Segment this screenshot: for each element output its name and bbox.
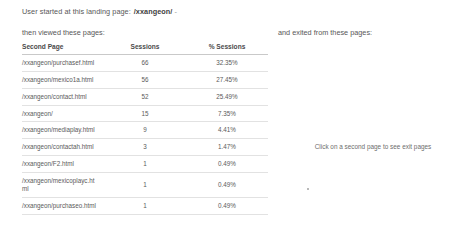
landing-page-path: /xxangeon/ bbox=[134, 7, 173, 16]
landing-page-label: User started at this landing page: bbox=[22, 7, 131, 16]
table-row[interactable]: /xxangeon/contact.html5225.49% bbox=[22, 88, 268, 105]
cell-sessions: 1 bbox=[104, 197, 186, 214]
column-header-sessions[interactable]: Sessions bbox=[104, 43, 186, 55]
landing-page-statement: User started at this landing page:/xxang… bbox=[22, 7, 177, 16]
cell-percent-sessions: 25.49% bbox=[186, 88, 268, 105]
cell-second-page[interactable]: /xxangeon/contact.html bbox=[22, 88, 104, 105]
column-header-percent-sessions[interactable]: % Sessions bbox=[186, 43, 268, 55]
landing-page-trailing-mark: - bbox=[174, 7, 176, 16]
table-header: Second Page Sessions % Sessions bbox=[22, 43, 268, 55]
cell-second-page[interactable]: /xxangeon/mexicoplayc.html bbox=[22, 173, 104, 198]
cell-second-page[interactable]: /xxangeon/contactah.html bbox=[22, 139, 104, 156]
cell-percent-sessions: 27.45% bbox=[186, 71, 268, 88]
cell-second-page[interactable]: /xxangeon/purchaseo.html bbox=[22, 197, 104, 214]
table-row[interactable]: /xxangeon/F2.html10.49% bbox=[22, 156, 268, 173]
cell-sessions: 52 bbox=[104, 88, 186, 105]
cell-percent-sessions: 7.35% bbox=[186, 105, 268, 122]
table-body: /xxangeon/purchasef.html6632.35%/xxangeo… bbox=[22, 55, 268, 215]
cell-sessions: 9 bbox=[104, 122, 186, 139]
landing-page-flow-panel: User started at this landing page:/xxang… bbox=[0, 0, 278, 243]
second-page-table: Second Page Sessions % Sessions /xxangeo… bbox=[22, 43, 268, 215]
cell-sessions: 66 bbox=[104, 55, 186, 72]
cell-percent-sessions: 1.47% bbox=[186, 139, 268, 156]
cell-sessions: 56 bbox=[104, 71, 186, 88]
cell-sessions: 1 bbox=[104, 173, 186, 198]
exit-pages-hint: Click on a second page to see exit pages bbox=[278, 143, 468, 150]
cell-percent-sessions: 0.49% bbox=[186, 197, 268, 214]
cell-percent-sessions: 0.49% bbox=[186, 173, 268, 198]
table-row[interactable]: /xxangeon/157.35% bbox=[22, 105, 268, 122]
cell-second-page[interactable]: /xxangeon/purchasef.html bbox=[22, 55, 104, 72]
cell-sessions: 3 bbox=[104, 139, 186, 156]
cell-percent-sessions: 0.49% bbox=[186, 156, 268, 173]
cell-percent-sessions: 32.35% bbox=[186, 55, 268, 72]
cell-second-page[interactable]: /xxangeon/mexico1a.html bbox=[22, 71, 104, 88]
exit-pages-panel: and exited from these pages: Click on a … bbox=[278, 0, 468, 243]
table-row[interactable]: /xxangeon/mediaplay.html94.41% bbox=[22, 122, 268, 139]
table-row[interactable]: /xxangeon/mexicoplayc.html10.49% bbox=[22, 173, 268, 198]
cell-sessions: 15 bbox=[104, 105, 186, 122]
cell-sessions: 1 bbox=[104, 156, 186, 173]
table-header-row: Second Page Sessions % Sessions bbox=[22, 43, 268, 55]
stray-speck bbox=[307, 188, 309, 190]
table-row[interactable]: /xxangeon/contactah.html31.47% bbox=[22, 139, 268, 156]
exited-from-label: and exited from these pages: bbox=[278, 28, 372, 37]
cell-second-page[interactable]: /xxangeon/F2.html bbox=[22, 156, 104, 173]
column-header-second-page[interactable]: Second Page bbox=[22, 43, 104, 55]
table-row[interactable]: /xxangeon/mexico1a.html5627.45% bbox=[22, 71, 268, 88]
then-viewed-label: then viewed these pages: bbox=[22, 28, 105, 37]
table-row[interactable]: /xxangeon/purchasef.html6632.35% bbox=[22, 55, 268, 72]
cell-second-page[interactable]: /xxangeon/mediaplay.html bbox=[22, 122, 104, 139]
cell-second-page[interactable]: /xxangeon/ bbox=[22, 105, 104, 122]
table-row[interactable]: /xxangeon/purchaseo.html10.49% bbox=[22, 197, 268, 214]
cell-percent-sessions: 4.41% bbox=[186, 122, 268, 139]
